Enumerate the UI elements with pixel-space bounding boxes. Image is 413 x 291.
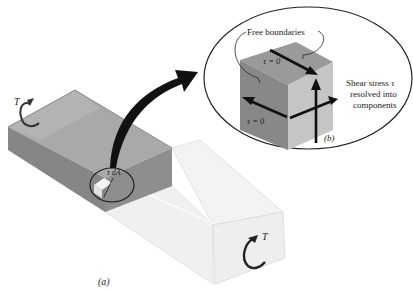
tau-top-label: τ = 0 [263,56,281,66]
shear-note-line2: resolved into [350,89,397,99]
free-boundaries-label: Free boundaries [247,27,305,37]
label-a: (a) [98,276,110,288]
shear-note-line3: components [353,100,397,110]
label-b: (b) [324,133,335,143]
shear-note-line1: Shear stress τ [346,78,395,88]
torsion-diagram: τ dA T T (a) Free boundaries τ = 0 [0,0,413,291]
torque-left-label: T [14,96,21,107]
tau-da-label: τ dA [107,168,121,177]
bar-dark-section [8,90,172,212]
tau-left-label: τ = 0 [247,116,265,126]
